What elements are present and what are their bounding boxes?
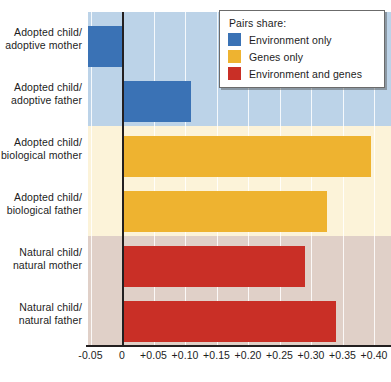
category-label-line: Natural child/ [19,301,82,314]
zero-axis-line [122,12,124,345]
gridline [154,12,155,345]
legend-item-environment-and-genes: Environment and genes [228,67,376,80]
category-label: Adopted child/ biological mother [1,136,82,161]
x-tick-label: +0.10 [171,349,198,361]
category-label-line: natural father [19,314,82,327]
category-label-line: biological father [7,204,82,217]
category-label-line: Adopted child/ [11,81,82,94]
category-label-line: Natural child/ [13,246,82,259]
bar [122,81,191,122]
legend-item-genes-only: Genes only [228,50,376,63]
x-tick-label: +0.40 [360,349,387,361]
bar [122,191,327,232]
legend-label: Environment only [249,34,332,46]
bar [88,26,122,67]
category-label-line: adoptive father [11,94,82,107]
category-label-line: natural mother [13,259,82,272]
legend: Pairs share: Environment only Genes only… [219,10,385,88]
legend-label: Genes only [249,51,303,63]
x-tick-label: 0 [119,349,125,361]
x-tick-label: +0.30 [297,349,324,361]
legend-swatch-environment-only [228,33,241,46]
gridline [217,12,218,345]
x-tick-label: +0.35 [329,349,356,361]
category-label-line: Adopted child/ [5,26,82,39]
correlation-bar-chart: Adopted child/ adoptive mother Adopted c… [0,0,391,382]
category-label: Natural child/ natural father [19,301,82,326]
category-axis-labels: Adopted child/ adoptive mother Adopted c… [0,12,84,345]
category-label-line: biological mother [1,149,82,162]
bar [122,301,336,342]
x-tick-label: +0.05 [140,349,167,361]
category-label: Natural child/ natural mother [13,246,82,271]
legend-title: Pairs share: [229,17,376,29]
category-label: Adopted child/ biological father [7,191,82,216]
category-label-line: adoptive mother [5,39,82,52]
bar [122,246,305,287]
category-label: Adopted child/ adoptive mother [5,26,82,51]
category-label: Adopted child/ adoptive father [11,81,82,106]
x-tick-label: +0.25 [266,349,293,361]
x-tick-label: -0.05 [78,349,102,361]
legend-swatch-genes-only [228,50,241,63]
category-label-line: Adopted child/ [1,136,82,149]
legend-swatch-environment-and-genes [228,67,241,80]
legend-label: Environment and genes [249,68,362,80]
x-tick-label: +0.20 [234,349,261,361]
x-axis-line [86,345,391,347]
x-tick-label: +0.15 [203,349,230,361]
category-label-line: Adopted child/ [7,191,82,204]
legend-item-environment-only: Environment only [228,33,376,46]
bar [122,136,371,177]
gridline [185,12,186,345]
x-axis-tick-labels: -0.050+0.05+0.10+0.15+0.20+0.25+0.30+0.3… [0,349,391,369]
